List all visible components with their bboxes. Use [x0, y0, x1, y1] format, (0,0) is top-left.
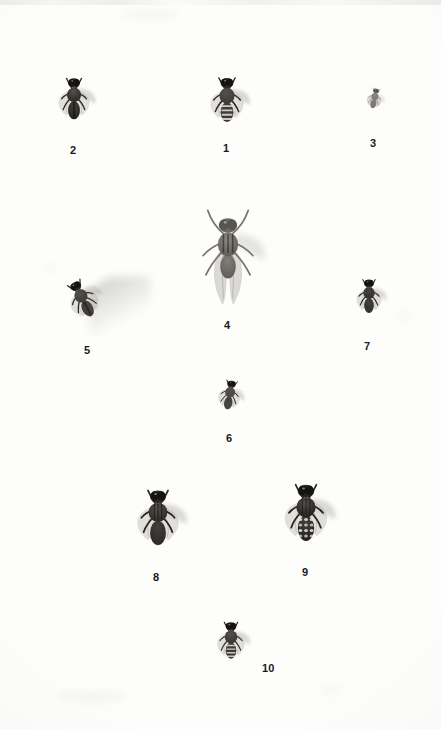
specimen-9: [269, 472, 343, 568]
specimen-8: [122, 478, 194, 572]
scan-edge-artifact: [0, 0, 441, 5]
specimen-label-2: 2: [70, 145, 76, 156]
specimen-3: [358, 82, 390, 120]
specimen-4: [182, 198, 274, 318]
specimen-label-6: 6: [226, 433, 232, 444]
fly-dorsal-icon: [207, 614, 255, 676]
scan-smudge: [57, 692, 127, 701]
specimen-10: [207, 614, 255, 676]
fly-dorsal-icon: [269, 472, 343, 568]
fly-dorsal-icon: [122, 478, 194, 572]
specimen-plate: 12345678910: [0, 0, 441, 729]
specimen-label-4: 4: [224, 320, 230, 331]
specimen-label-9: 9: [302, 567, 308, 578]
scan-smudge: [318, 687, 342, 693]
specimen-2: [47, 69, 101, 139]
specimen-7: [347, 272, 391, 329]
fly-dorsal-icon: [47, 69, 101, 139]
fly-dorsal-icon: [347, 272, 391, 329]
specimen-label-7: 7: [364, 341, 370, 352]
fly-dorsal-icon: [358, 82, 390, 120]
specimen-6: [206, 371, 252, 426]
scan-smudge: [394, 313, 414, 319]
fly-dorsal-icon: [182, 198, 274, 318]
fly-dorsal-icon: [198, 68, 256, 143]
fly-dorsal-icon: [206, 371, 252, 426]
specimen-label-3: 3: [370, 138, 376, 149]
specimen-label-5: 5: [84, 345, 90, 356]
scan-smudge: [42, 266, 58, 271]
specimen-5: [48, 263, 123, 344]
specimen-1: [198, 68, 256, 143]
scan-smudge: [120, 11, 180, 18]
fly-dorsal-icon: [48, 263, 123, 344]
specimen-label-10: 10: [262, 663, 275, 674]
specimen-label-1: 1: [223, 143, 229, 154]
specimen-label-8: 8: [153, 572, 159, 583]
